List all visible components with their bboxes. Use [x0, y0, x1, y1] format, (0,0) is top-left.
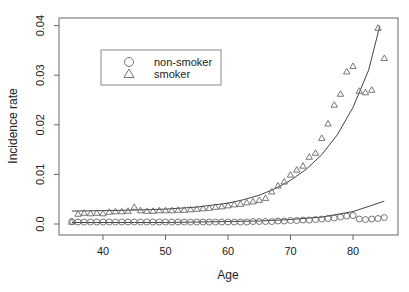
- data-point-smoker: [287, 172, 293, 178]
- x-axis-label: Age: [217, 268, 239, 282]
- y-axis-label: Incidence rate: [6, 88, 20, 164]
- data-point-smoker: [162, 207, 168, 213]
- data-point-non-smoker: [356, 216, 362, 222]
- data-point-non-smoker: [331, 215, 337, 221]
- data-point-smoker: [144, 208, 150, 214]
- data-point-smoker: [262, 195, 268, 201]
- data-point-smoker: [131, 204, 137, 210]
- data-point-smoker: [256, 197, 262, 203]
- data-point-smoker: [319, 135, 325, 141]
- data-point-smoker: [344, 68, 350, 74]
- data-point-non-smoker: [263, 219, 269, 225]
- data-point-smoker: [156, 207, 162, 213]
- data-point-smoker: [106, 209, 112, 215]
- data-point-non-smoker: [369, 216, 375, 222]
- data-point-smoker: [331, 102, 337, 108]
- y-tick-label: 0.0: [34, 216, 46, 231]
- data-point-smoker: [369, 87, 375, 93]
- data-point-smoker: [300, 163, 306, 169]
- y-axis: 0.00.010.020.030.04: [34, 15, 59, 232]
- data-point-smoker: [294, 167, 300, 173]
- data-point-non-smoker: [381, 215, 387, 221]
- data-point-non-smoker: [281, 218, 287, 224]
- x-tick-label: 60: [222, 245, 234, 257]
- data-point-smoker: [375, 25, 381, 31]
- data-point-smoker: [306, 154, 312, 160]
- legend: non-smoker smoker: [101, 50, 221, 85]
- data-point-non-smoker: [363, 217, 369, 223]
- data-point-smoker: [112, 208, 118, 214]
- data-point-non-smoker: [244, 219, 250, 225]
- y-tick-label: 0.03: [34, 64, 46, 85]
- data-point-non-smoker: [350, 213, 356, 219]
- data-point-smoker: [381, 55, 387, 61]
- x-tick-label: 70: [284, 245, 296, 257]
- data-point-smoker: [250, 198, 256, 204]
- y-tick-label: 0.02: [34, 114, 46, 135]
- data-point-smoker: [175, 207, 181, 213]
- data-point-non-smoker: [275, 218, 281, 224]
- data-point-non-smoker: [238, 219, 244, 225]
- data-point-smoker: [75, 211, 81, 217]
- x-tick-label: 80: [347, 245, 359, 257]
- data-point-smoker: [350, 63, 356, 69]
- data-point-smoker: [237, 201, 243, 207]
- incidence-rate-chart: 4050607080 0.00.010.020.030.04 Age Incid…: [0, 0, 409, 292]
- data-point-non-smoker: [269, 219, 275, 225]
- legend-label-non-smoker: non-smoker: [154, 56, 212, 68]
- data-point-non-smoker: [338, 214, 344, 220]
- data-point-non-smoker: [231, 219, 237, 225]
- data-point-smoker: [119, 208, 125, 214]
- data-point-smoker: [312, 150, 318, 156]
- x-tick-label: 40: [97, 245, 109, 257]
- legend-label-smoker: smoker: [154, 68, 190, 80]
- x-tick-label: 50: [159, 245, 171, 257]
- data-point-smoker: [325, 121, 331, 127]
- data-point-non-smoker: [288, 218, 294, 224]
- data-point-smoker: [244, 199, 250, 205]
- data-point-non-smoker: [375, 216, 381, 222]
- y-tick-label: 0.04: [34, 15, 46, 36]
- data-point-smoker: [362, 89, 368, 95]
- y-tick-label: 0.01: [34, 164, 46, 185]
- data-point-smoker: [150, 208, 156, 214]
- data-point-non-smoker: [300, 217, 306, 223]
- data-point-non-smoker: [294, 218, 300, 224]
- data-point-smoker: [337, 91, 343, 97]
- data-point-non-smoker: [344, 213, 350, 219]
- x-axis: 4050607080: [97, 235, 359, 257]
